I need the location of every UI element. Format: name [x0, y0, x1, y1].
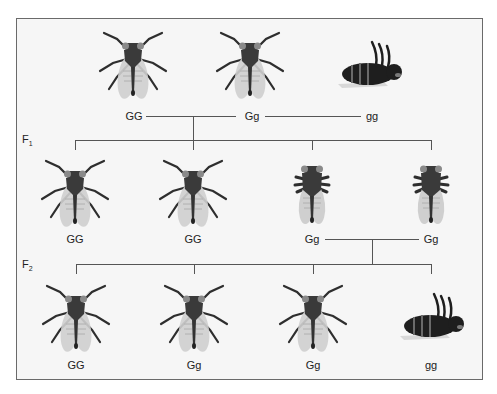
drop-line	[194, 264, 195, 274]
fly-parent-dead-icon	[334, 38, 406, 94]
drop-line	[76, 264, 77, 274]
genotype-label: Gg	[306, 359, 321, 371]
genotype-label: gg	[425, 359, 437, 371]
sibling-line	[75, 140, 432, 141]
cross-line	[146, 116, 236, 117]
sibling-line	[76, 264, 432, 265]
cross-line	[265, 116, 361, 117]
fly-f2-3-icon	[277, 280, 349, 356]
drop-line	[313, 264, 314, 274]
descent-line	[372, 239, 373, 264]
fly-f2-2-icon	[158, 280, 230, 356]
fly-f1-3-short-leg-icon	[290, 158, 334, 226]
genotype-label: Gg	[245, 110, 260, 122]
generation-label-f1: F1	[22, 133, 33, 147]
fly-f2-4-dead-icon	[396, 290, 468, 346]
genotype-label: GG	[66, 233, 83, 245]
drop-line	[75, 140, 76, 150]
genotype-label: Gg	[424, 233, 439, 245]
fly-f1-2-icon	[157, 155, 229, 231]
drop-line	[431, 140, 432, 150]
drop-line	[312, 140, 313, 150]
genotype-label: Gg	[305, 233, 320, 245]
fly-parent-heterozygous-icon	[214, 27, 286, 103]
drop-line	[431, 264, 432, 274]
fly-parent-gg-homozygous-icon	[97, 27, 169, 103]
genotype-label: GG	[184, 233, 201, 245]
genotype-label: gg	[366, 110, 378, 122]
genotype-label: GG	[67, 359, 84, 371]
generation-label-f2: F2	[22, 258, 33, 272]
drop-line	[193, 140, 194, 150]
fly-f2-1-icon	[40, 280, 112, 356]
genotype-label: Gg	[187, 359, 202, 371]
genotype-label: GG	[125, 110, 142, 122]
fly-f1-1-icon	[39, 155, 111, 231]
descent-line	[193, 116, 194, 140]
fly-f1-4-short-leg-icon	[409, 158, 453, 226]
